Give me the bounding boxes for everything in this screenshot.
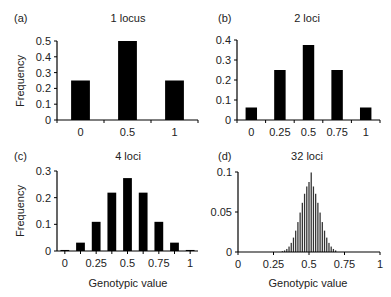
bar [317,203,318,252]
bar [76,243,85,251]
y-tick-label: 0.1 [216,94,231,106]
bar [295,231,296,252]
y-tick-label: 0 [45,114,51,126]
panel-title: 1 locus [111,12,146,24]
x-tick-label: 0.75 [148,257,169,269]
bar [246,108,257,121]
y-tick-label: 0.4 [216,34,231,46]
x-tick-label: 0 [77,126,83,138]
bar [118,41,137,120]
x-tick-label: 0.25 [85,257,106,269]
panel-label: (a) [14,12,27,24]
x-tick-label: 1 [363,126,369,138]
x-tick-label: 1 [377,258,383,270]
bar [303,45,314,120]
x-tick-label: 1 [187,257,193,269]
x-tick-label: 0 [235,258,241,270]
bar [170,243,179,251]
bar [139,193,148,251]
bar [324,231,325,252]
y-tick-label: 0.4 [36,51,51,63]
panel-label: (b) [218,12,231,24]
x-tick-label: 0.5 [120,126,135,138]
bar [319,213,320,252]
y-tick-label: 0.05 [211,206,232,218]
figure-canvas: (a) 1 locus Frequency 00.10.20.30.40.500… [0,0,391,297]
y-tick-label: 0.3 [36,165,51,177]
bar [331,70,342,120]
bar [302,203,303,252]
panel-b: (b) 2 loci 00.10.20.30.400.250.50.751 [216,12,380,138]
bar [165,81,184,121]
x-tick-label: 0.25 [263,258,284,270]
panel-c: (c) 4 loci Frequency Genotypic value 00.… [14,150,198,289]
bar [71,81,90,121]
y-tick-label: 0.2 [216,74,231,86]
x-tick-label: 1 [171,126,177,138]
panel-d: (d) 32 loci Genotypic value 00.050.100.2… [211,150,383,289]
y-tick-label: 0.1 [217,166,232,178]
y-tick-label: 0.1 [36,218,51,230]
bar [288,247,289,252]
y-tick-label: 0.5 [36,35,51,47]
x-tick-label: 0.25 [269,126,290,138]
y-axis-label: Frequency [14,185,26,237]
bar [92,222,101,251]
bar [326,238,327,252]
y-tick-label: 0 [225,114,231,126]
bar [304,194,305,252]
panel-title: 2 loci [294,12,320,24]
bar [331,247,332,252]
bar [291,243,292,252]
bar [313,186,314,252]
bar [360,108,371,121]
y-tick-label: 0.2 [36,82,51,94]
x-tick-label: 0.5 [120,257,135,269]
x-axis-label: Genotypic value [89,277,168,289]
bar [306,186,307,252]
x-tick-label: 0 [248,126,254,138]
y-axis-label: Frequency [14,55,26,107]
bar [107,193,116,251]
x-tick-label: 0.5 [301,126,316,138]
x-tick-label: 0.75 [326,126,347,138]
bar [322,222,323,252]
bar [123,178,132,251]
bar [154,222,163,251]
bar [328,243,329,252]
panel-title: 4 loci [115,150,141,162]
bar [308,182,309,252]
bar [293,238,294,252]
bar [315,194,316,252]
bar [299,213,300,252]
y-tick-label: 0 [45,245,51,257]
x-tick-label: 0.5 [301,258,316,270]
y-tick-label: 0.2 [36,192,51,204]
panel-label: (d) [218,150,231,162]
y-tick-label: 0.3 [36,67,51,79]
y-tick-label: 0.1 [36,98,51,110]
x-tick-label: 0.75 [334,258,355,270]
y-tick-label: 0.3 [216,54,231,66]
bar [274,70,285,120]
bar [297,222,298,252]
y-tick-label: 0 [226,246,232,258]
x-tick-label: 0 [62,257,68,269]
x-axis-label: Genotypic value [269,277,348,289]
panel-a: (a) 1 locus Frequency 00.10.20.30.40.500… [14,12,198,138]
bar [311,172,312,252]
panel-title: 32 loci [291,150,323,162]
panel-label: (c) [14,150,27,162]
